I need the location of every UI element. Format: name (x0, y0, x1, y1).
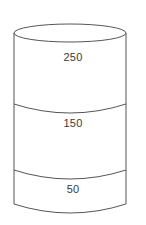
segment-label-bottom: 50 (0, 183, 146, 195)
cylinder-top-ellipse (14, 24, 126, 42)
segment-label-middle: 150 (0, 117, 146, 129)
cylinder-figure: 250 150 50 (0, 0, 146, 225)
segment-label-top: 250 (0, 51, 146, 63)
